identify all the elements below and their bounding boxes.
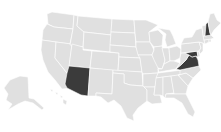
state-ohio[interactable]: Ohio [169, 46, 181, 61]
state-alaska[interactable]: Alaska [4, 76, 44, 110]
us-map: United States Washington Oregon Californ… [0, 0, 221, 132]
state-new-mexico[interactable]: New Mexico [88, 68, 113, 96]
state-kansas[interactable]: Kansas [118, 57, 142, 72]
state-new-york[interactable]: New York [181, 28, 205, 44]
state-north-dakota[interactable]: North Dakota [111, 19, 135, 33]
state-hawaii[interactable]: Hawaii [50, 89, 67, 105]
state-south-dakota[interactable]: South Dakota [110, 32, 136, 47]
state-colorado[interactable]: Colorado [90, 51, 119, 71]
state-florida[interactable]: Florida [165, 94, 195, 117]
state-arizona[interactable]: Arizona [65, 66, 90, 96]
state-maine[interactable]: Maine [208, 13, 221, 35]
state-wyoming[interactable]: Wyoming [83, 32, 111, 52]
